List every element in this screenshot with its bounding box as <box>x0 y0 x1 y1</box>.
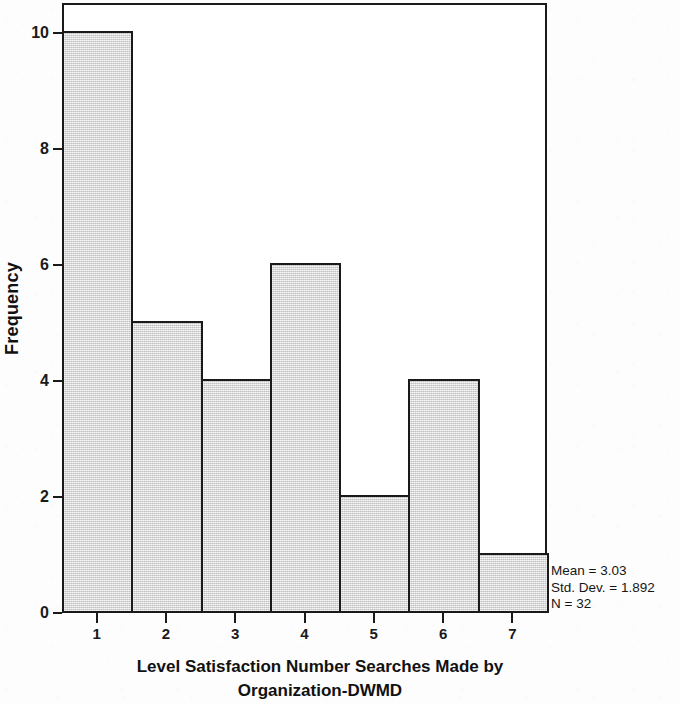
plot-area <box>62 3 547 613</box>
y-tick-label: 8 <box>40 139 49 159</box>
x-axis-title: Level Satisfaction Number Searches Made … <box>40 655 600 703</box>
y-tick-mark <box>53 612 62 614</box>
histogram-bar <box>339 495 410 613</box>
x-tick-mark <box>96 613 98 623</box>
mean-label: Mean = 3.03 <box>551 563 655 580</box>
x-tick-mark <box>511 613 513 623</box>
y-tick-mark <box>53 496 62 498</box>
x-tick-label: 1 <box>83 625 111 642</box>
x-tick-label: 2 <box>152 625 180 642</box>
x-tick-mark <box>165 613 167 623</box>
histogram-bar <box>270 263 341 613</box>
x-axis: 1234567 <box>62 613 547 653</box>
x-tick-mark <box>373 613 375 623</box>
y-tick-mark <box>53 32 62 34</box>
histogram-bar <box>62 31 133 613</box>
histogram-bar <box>201 379 272 613</box>
x-tick-label: 6 <box>429 625 457 642</box>
y-axis-title: Frequency <box>2 209 23 409</box>
x-tick-mark <box>234 613 236 623</box>
std-dev-label: Std. Dev. = 1.892 <box>551 580 655 597</box>
y-axis: Frequency 1086420 <box>0 0 62 704</box>
n-label: N = 32 <box>551 596 655 613</box>
y-tick-mark <box>53 380 62 382</box>
y-tick-label: 4 <box>40 371 49 391</box>
histogram-bar <box>408 379 479 613</box>
x-axis-title-line-2: Organization-DWMD <box>40 679 600 703</box>
x-axis-title-line-1: Level Satisfaction Number Searches Made … <box>40 655 600 679</box>
y-tick-label: 10 <box>31 23 49 43</box>
x-tick-mark <box>304 613 306 623</box>
histogram-bars <box>64 5 545 611</box>
y-tick-mark <box>53 148 62 150</box>
y-tick-label: 2 <box>40 487 49 507</box>
y-tick-mark <box>53 264 62 266</box>
histogram-bar <box>131 321 202 613</box>
y-tick-label: 0 <box>40 603 49 623</box>
x-tick-label: 3 <box>221 625 249 642</box>
histogram-bar <box>478 553 549 613</box>
x-tick-label: 5 <box>360 625 388 642</box>
statistics-annotation: Mean = 3.03 Std. Dev. = 1.892 N = 32 <box>551 563 655 613</box>
x-tick-mark <box>442 613 444 623</box>
x-tick-label: 4 <box>291 625 319 642</box>
x-tick-label: 7 <box>498 625 526 642</box>
y-tick-label: 6 <box>40 255 49 275</box>
